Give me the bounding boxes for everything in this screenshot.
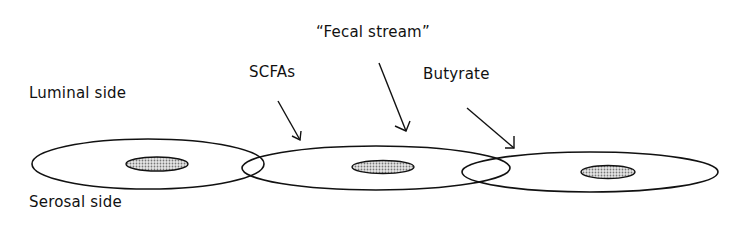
butyrate-arrow [467,108,514,148]
scfas-label: SCFAs [249,63,295,81]
luminal-side-label: Luminal side [29,84,126,102]
butyrate-label: Butyrate [423,65,490,83]
inner-lumen-3 [581,166,635,179]
inner-lumen-1 [126,157,188,171]
scfas-arrow [278,101,301,140]
segment-3 [462,152,718,192]
inner-lumen-2 [352,161,414,174]
segment-1 [32,139,264,189]
fecal-stream-label: “Fecal stream” [316,23,430,41]
segment-2 [242,146,510,190]
serosal-side-label: Serosal side [29,193,122,211]
fecal-stream-arrow [379,63,410,131]
